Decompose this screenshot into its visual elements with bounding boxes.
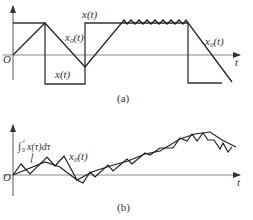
panel-a-square-wave [13,23,222,84]
panel-a: O t x(t) x(t) x0(t) x0(t) (a) [3,6,240,105]
panel-b-origin-label: O [3,171,11,183]
panel-a-x0-label-right: x0(t) [204,35,224,49]
panel-b-caption: (b) [117,201,130,214]
panel-b-t-label: t [237,176,241,188]
panel-b-integral-leader [31,153,33,163]
svg-text:x(τ)dτ: x(τ)dτ [26,141,51,153]
panel-b-x0-label: x0(t) [68,150,88,164]
svg-text:0: 0 [22,147,25,153]
figure-canvas: O t x(t) x(t) x0(t) x0(t) (a) O t ∫ t 0 … [0,0,253,220]
panel-a-x-label-bottom: x(t) [54,68,71,81]
svg-text:t: t [23,138,25,144]
panel-a-caption: (a) [117,92,130,105]
panel-a-origin-label: O [3,53,11,65]
panel-a-triangle-output [13,20,232,82]
panel-b: O t ∫ t 0 x(τ)dτ x0(t) (b) [3,125,241,214]
panel-b-integral-curve [13,132,236,180]
panel-a-t-label: t [235,56,239,68]
panel-b-integral-label: ∫ t 0 x(τ)dτ [17,138,51,153]
panel-a-x0-label-left: x0(t) [64,31,84,45]
panel-a-x-label-top: x(t) [81,8,98,21]
